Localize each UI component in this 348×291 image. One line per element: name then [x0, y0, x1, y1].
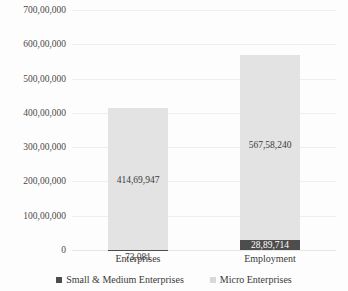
- legend-label: Micro Enterprises: [220, 274, 292, 285]
- y-tick-label: 100,00,000: [0, 211, 66, 221]
- legend-item-micro-enterprises[interactable]: Micro Enterprises: [210, 274, 292, 285]
- legend-swatch-icon: [210, 277, 216, 283]
- stacked-column-chart: 700,00,000 600,00,000 500,00,000 400,00,…: [0, 0, 348, 291]
- y-tick-label: 600,00,000: [0, 39, 66, 49]
- y-tick-label: 200,00,000: [0, 176, 66, 186]
- y-tick-label: 400,00,000: [0, 108, 66, 118]
- legend-item-small-medium-enterprises[interactable]: Small & Medium Enterprises: [56, 274, 184, 285]
- y-tick-label: 700,00,000: [0, 5, 66, 15]
- data-label-micro-enterprises: 414,69,947: [83, 175, 193, 186]
- x-axis-category-employment: Employment: [210, 253, 330, 265]
- x-axis-category-enterprises: Enterprises: [78, 253, 198, 265]
- legend-label: Small & Medium Enterprises: [66, 274, 184, 285]
- y-tick-label: 300,00,000: [0, 142, 66, 152]
- chart-legend: Small & Medium Enterprises Micro Enterpr…: [0, 274, 348, 285]
- data-label-small-medium-enterprises: 28,89,714: [215, 240, 325, 251]
- gridline: [72, 10, 336, 11]
- plot-area: 414,69,947 73,081 567,58,240 28,89,714: [72, 10, 336, 250]
- legend-swatch-icon: [56, 277, 62, 283]
- data-label-micro-enterprises: 567,58,240: [215, 140, 325, 151]
- gridline: [72, 44, 336, 45]
- y-tick-label: 0: [0, 245, 66, 255]
- y-tick-label: 500,00,000: [0, 74, 66, 84]
- y-axis-labels: 700,00,000 600,00,000 500,00,000 400,00,…: [0, 10, 66, 250]
